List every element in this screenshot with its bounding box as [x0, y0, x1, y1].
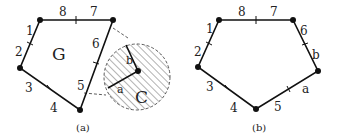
label-7: 7 — [90, 5, 98, 19]
label-a: a — [117, 83, 124, 96]
label-2: 2 — [194, 45, 202, 59]
caption-b: (b) — [252, 122, 266, 133]
label-4: 4 — [230, 101, 238, 115]
diagram-svg: 8 7 1 2 3 4 5 6 G b a C (a) 8 7 1 2 3 4 … — [0, 0, 338, 139]
label-3: 3 — [25, 81, 33, 95]
label-1: 1 — [206, 22, 214, 36]
label-5: 5 — [274, 100, 282, 114]
label-5: 5 — [77, 79, 85, 93]
label-1: 1 — [26, 24, 34, 38]
label-4: 4 — [50, 101, 58, 115]
panel-b: 8 7 1 2 3 4 5 6 b a (b) — [194, 5, 321, 133]
caption-a: (a) — [76, 122, 90, 133]
panel-a: 8 7 1 2 3 4 5 6 G b a C (a) — [15, 5, 170, 133]
label-8: 8 — [59, 5, 67, 19]
label-2: 2 — [15, 45, 23, 59]
label-a: a — [302, 82, 309, 96]
label-6: 6 — [300, 24, 308, 38]
label-6: 6 — [92, 37, 100, 51]
label-b: b — [312, 48, 320, 62]
label-8: 8 — [238, 5, 246, 19]
figure: 8 7 1 2 3 4 5 6 G b a C (a) 8 7 1 2 3 4 … — [0, 0, 338, 139]
label-c: C — [135, 87, 148, 107]
dashed-connectors — [113, 28, 128, 38]
label-g: G — [52, 44, 66, 64]
polygon-g — [20, 20, 113, 110]
label-b: b — [126, 54, 133, 67]
label-7: 7 — [270, 5, 278, 19]
label-3: 3 — [206, 80, 214, 94]
